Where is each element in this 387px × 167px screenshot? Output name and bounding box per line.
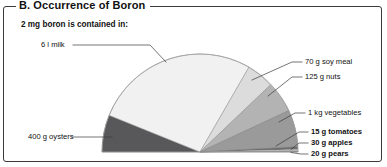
label-soy-meal: 70 g soy meal	[305, 57, 352, 66]
boron-occurrence-pie-chart: 6 l milk 400 g oysters 70 g soy meal 125…	[0, 0, 387, 167]
leader-milk	[73, 45, 166, 62]
leader-pears	[291, 153, 308, 155]
label-milk: 6 l milk	[41, 40, 65, 49]
label-oysters: 400 g oysters	[28, 132, 74, 141]
label-tomatoes: 15 g tomatoes	[311, 127, 362, 136]
pie-slices	[102, 54, 298, 152]
label-nuts: 125 g nuts	[305, 72, 340, 81]
label-pears: 20 g pears	[311, 149, 349, 158]
label-vegetables: 1 kg vegetables	[308, 108, 361, 117]
label-apples: 30 g apples	[311, 138, 352, 147]
